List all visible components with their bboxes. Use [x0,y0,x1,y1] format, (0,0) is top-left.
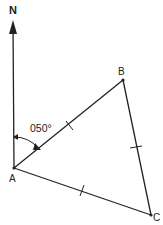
point-a [12,166,15,169]
tick-bc [130,146,142,148]
bearing-diagram: N 050° A B C [0,0,163,225]
bearing-label: 050° [30,122,52,134]
side-ac [14,168,151,215]
label-b: B [118,66,125,77]
label-a: A [9,173,16,184]
side-bc [123,80,151,215]
north-arrowhead-icon [9,20,17,34]
north-label: N [9,4,17,16]
north-arrow [9,20,17,168]
label-c: C [153,212,160,223]
point-b [121,78,124,81]
